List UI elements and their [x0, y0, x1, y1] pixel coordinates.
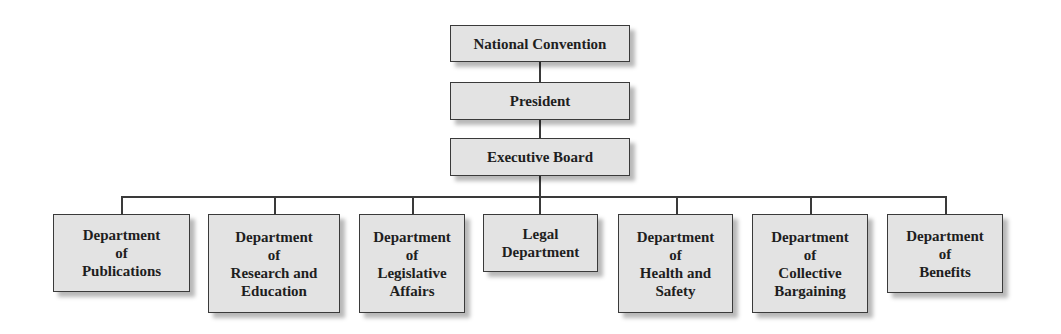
- node-president: President: [450, 82, 630, 120]
- node-dept-benefits: Department of Benefits: [887, 214, 1003, 293]
- connector-convention-president: [539, 62, 541, 82]
- connector-drop-benefits: [945, 196, 947, 214]
- connector-drop-research: [274, 196, 276, 214]
- node-dept-collective-bargaining: Department of Collective Bargaining: [752, 214, 868, 313]
- node-executive-board: Executive Board: [450, 138, 630, 176]
- node-national-convention: National Convention: [450, 25, 630, 62]
- connector-board-trunk: [539, 176, 541, 214]
- node-dept-publications: Department of Publications: [53, 214, 190, 292]
- connector-president-board: [539, 120, 541, 138]
- connector-drop-legislative: [412, 196, 414, 214]
- connector-drop-health: [676, 196, 678, 214]
- connector-horizontal-bus: [121, 196, 946, 198]
- node-dept-research-education: Department of Research and Education: [208, 214, 340, 313]
- node-dept-health-safety: Department of Health and Safety: [618, 214, 733, 313]
- node-dept-legislative-affairs: Department of Legislative Affairs: [359, 214, 465, 313]
- connector-drop-publications: [121, 196, 123, 214]
- connector-drop-collective: [810, 196, 812, 214]
- node-legal-department: Legal Department: [483, 214, 598, 272]
